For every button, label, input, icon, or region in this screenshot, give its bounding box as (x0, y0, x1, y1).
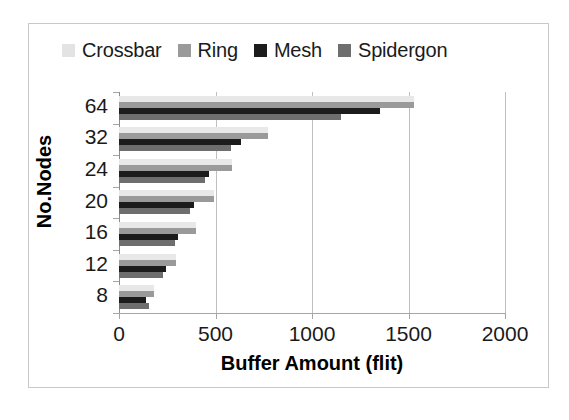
bar-group-20 (119, 187, 505, 219)
x-tick-label-1000: 1000 (277, 322, 347, 346)
x-tick-label-500: 500 (181, 322, 251, 346)
x-tick-mark-1500 (409, 313, 410, 319)
x-axis-title: Buffer Amount (flit) (119, 352, 505, 375)
gridline-2000 (505, 92, 506, 313)
chart-legend: CrossbarRingMeshSpidergon (62, 36, 522, 64)
x-tick-mark-2000 (505, 313, 506, 319)
bar-group-64 (119, 92, 505, 124)
y-tick-mark (113, 124, 119, 125)
legend-item-ring[interactable]: Ring (178, 39, 238, 62)
y-tick-label-24: 24 (60, 157, 108, 181)
bar-group-12 (119, 250, 505, 282)
y-tick-label-12: 12 (60, 252, 108, 276)
legend-item-mesh[interactable]: Mesh (254, 39, 322, 62)
bar-spidergon-8[interactable] (119, 303, 149, 309)
bar-group-32 (119, 124, 505, 156)
y-tick-label-16: 16 (60, 220, 108, 244)
x-tick-mark-0 (119, 313, 120, 319)
legend-item-label: Spidergon (358, 39, 447, 62)
y-tick-mark (113, 281, 119, 282)
x-tick-label-2000: 2000 (470, 322, 540, 346)
legend-item-label: Ring (198, 39, 238, 62)
bar-group-8 (119, 281, 505, 313)
plot-area (119, 92, 505, 313)
y-tick-label-8: 8 (60, 283, 108, 307)
bar-spidergon-16[interactable] (119, 240, 175, 246)
y-tick-label-20: 20 (60, 189, 108, 213)
legend-swatch-icon (338, 44, 351, 57)
y-tick-mark (113, 187, 119, 188)
legend-item-label: Crossbar (82, 39, 162, 62)
bar-spidergon-32[interactable] (119, 145, 231, 151)
legend-swatch-icon (178, 44, 191, 57)
legend-item-crossbar[interactable]: Crossbar (62, 39, 162, 62)
bar-spidergon-12[interactable] (119, 272, 163, 278)
bar-chart-figure: CrossbarRingMeshSpidergon No.Nodes Buffe… (0, 0, 569, 420)
y-tick-mark (113, 92, 119, 93)
legend-swatch-icon (62, 44, 75, 57)
bar-spidergon-24[interactable] (119, 177, 205, 183)
x-tick-label-1500: 1500 (374, 322, 444, 346)
y-tick-label-64: 64 (60, 94, 108, 118)
y-tick-label-32: 32 (60, 125, 108, 149)
y-tick-mark (113, 250, 119, 251)
x-tick-mark-1000 (312, 313, 313, 319)
legend-swatch-icon (254, 44, 267, 57)
y-tick-mark (113, 155, 119, 156)
legend-item-label: Mesh (274, 39, 322, 62)
x-tick-label-0: 0 (84, 322, 154, 346)
bar-spidergon-20[interactable] (119, 208, 190, 214)
x-tick-mark-500 (216, 313, 217, 319)
legend-item-spidergon[interactable]: Spidergon (338, 39, 447, 62)
y-axis-title: No.Nodes (33, 122, 56, 242)
y-tick-mark (113, 218, 119, 219)
bar-spidergon-64[interactable] (119, 114, 341, 120)
bar-group-16 (119, 218, 505, 250)
bar-group-24 (119, 155, 505, 187)
